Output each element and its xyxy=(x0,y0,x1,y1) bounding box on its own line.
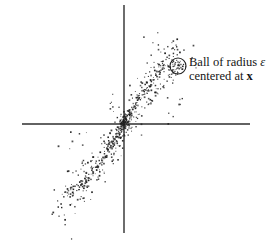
ball-annotation-line2-text: centered at xyxy=(189,69,247,83)
ball-annotation-line1-text: Ball of radius xyxy=(189,55,260,69)
x-symbol: x xyxy=(247,69,253,83)
scatter-plot xyxy=(0,0,277,243)
epsilon-symbol: ε xyxy=(260,55,265,69)
ball-annotation-line1: Ball of radius ε xyxy=(189,55,265,69)
ball-annotation: Ball of radius ε centered at x xyxy=(189,55,265,83)
scatter-figure: Ball of radius ε centered at x xyxy=(0,0,277,243)
ball-annotation-line2: centered at x xyxy=(189,69,265,83)
